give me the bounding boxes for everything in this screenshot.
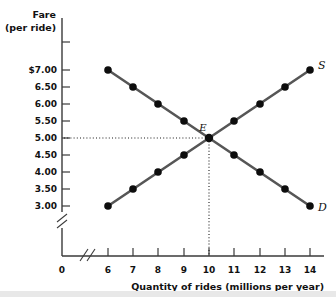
supply-curve-label: S <box>318 59 326 72</box>
equilibrium-point-marker <box>205 134 213 142</box>
x-axis-ticks <box>108 248 310 256</box>
supply-point-8 <box>154 168 162 176</box>
demand-point-9 <box>180 117 188 125</box>
demand-point-6 <box>104 66 112 74</box>
axes-group <box>62 18 324 256</box>
supply-point-12 <box>256 100 264 108</box>
y-tick-label-4-00: 4.00 <box>35 167 57 177</box>
x-tick-label-10: 10 <box>203 265 216 275</box>
y-axis-ticks <box>62 42 70 206</box>
y-tick-label-5-00: 5.00 <box>35 133 57 143</box>
x-tick-label-origin: 0 <box>59 265 65 275</box>
supply-demand-chart: E S D $7.00 6.50 6.00 5.50 5.00 4.50 4.0… <box>0 0 336 297</box>
x-axis-break-icon-2 <box>87 249 95 261</box>
page-edge-strip <box>0 291 336 297</box>
supply-point-7 <box>129 185 137 193</box>
supply-point-9 <box>180 151 188 159</box>
demand-point-12 <box>256 168 264 176</box>
x-tick-label-7: 7 <box>130 265 136 275</box>
demand-point-14 <box>306 202 314 210</box>
demand-curve-label: D <box>317 201 327 214</box>
demand-point-11 <box>230 151 238 159</box>
y-axis-title-line2: (per ride) <box>5 22 56 33</box>
x-tick-label-9: 9 <box>181 265 187 275</box>
x-tick-label-11: 11 <box>228 265 241 275</box>
demand-point-8 <box>154 100 162 108</box>
y-tick-label-3-00: 3.00 <box>35 201 57 211</box>
x-tick-label-6: 6 <box>105 265 111 275</box>
demand-point-7 <box>129 83 137 91</box>
y-tick-label-3-50: 3.50 <box>35 184 57 194</box>
demand-point-13 <box>281 185 289 193</box>
supply-point-6 <box>104 202 112 210</box>
y-tick-label-7-00: $7.00 <box>29 65 57 75</box>
equilibrium-point-label: E <box>198 122 207 133</box>
y-tick-label-6-50: 6.50 <box>35 82 57 92</box>
supply-point-14 <box>306 66 314 74</box>
y-tick-label-4-50: 4.50 <box>35 150 57 160</box>
x-tick-labels: 0 6 7 8 9 10 11 12 13 14 <box>59 265 316 275</box>
x-tick-label-14: 14 <box>304 265 317 275</box>
supply-point-11 <box>230 117 238 125</box>
x-tick-label-8: 8 <box>155 265 161 275</box>
y-axis-title-line1: Fare <box>33 9 56 20</box>
y-tick-labels: $7.00 6.50 6.00 5.50 5.00 4.50 4.00 3.50… <box>29 65 57 211</box>
x-tick-label-12: 12 <box>254 265 267 275</box>
x-axis-break-icon <box>80 249 88 261</box>
chart-canvas: E S D $7.00 6.50 6.00 5.50 5.00 4.50 4.0… <box>0 0 336 297</box>
y-tick-label-6-00: 6.00 <box>35 99 57 109</box>
supply-point-13 <box>281 83 289 91</box>
x-tick-label-13: 13 <box>279 265 292 275</box>
y-tick-label-5-50: 5.50 <box>35 116 57 126</box>
